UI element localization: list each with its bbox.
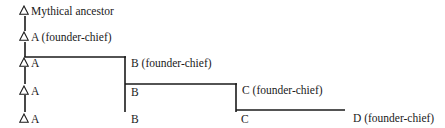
triangle-icon [19,113,29,123]
node-c-gen5: C [241,113,249,125]
triangle-icon [19,5,29,15]
node-label: A [31,85,39,97]
lineage-diagram: Mythical ancestor A (founder-chief) A B … [0,0,445,128]
node-b-gen4: B [131,86,139,98]
node-label: B [131,86,139,98]
node-b-gen5: B [131,113,139,125]
node-label: C (founder-chief) [242,84,323,96]
node-c-founder-chief: C (founder-chief) [242,84,323,96]
triangle-icon [19,85,29,95]
lineage-connector-lines [0,0,445,128]
node-label: D (founder-chief) [353,112,434,124]
node-a-gen5: A [19,113,39,125]
node-mythical-ancestor: Mythical ancestor [19,5,114,17]
node-a-gen4: A [19,85,39,97]
node-label: A [31,57,39,69]
node-a-founder-chief: A (founder-chief) [19,31,112,43]
node-label: A [31,113,39,125]
triangle-icon [19,31,29,41]
node-label: B (founder-chief) [131,57,212,69]
node-label: A (founder-chief) [31,31,112,43]
node-d-founder-chief: D (founder-chief) [353,112,434,124]
node-label: C [241,113,249,125]
node-label: Mythical ancestor [31,5,114,17]
node-b-founder-chief: B (founder-chief) [131,57,212,69]
node-label: B [131,113,139,125]
triangle-icon [19,57,29,67]
node-a-gen3: A [19,57,39,69]
